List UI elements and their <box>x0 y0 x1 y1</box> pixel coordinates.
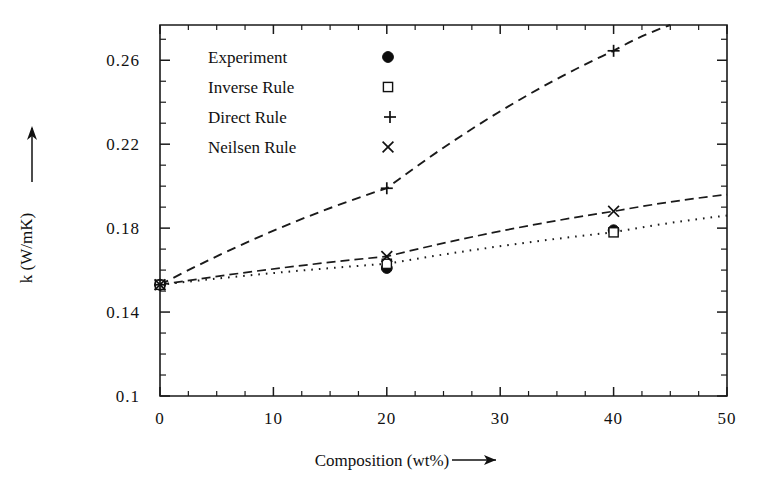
y-tick-label: 0.18 <box>106 219 140 238</box>
x-tick-label: 20 <box>377 409 396 428</box>
marker-inverse-rule <box>609 228 618 237</box>
x-tick-label: 50 <box>718 409 737 428</box>
x-axis-tick-labels: 01020304050 <box>155 409 736 428</box>
y-tick-label: 0.1 <box>116 387 140 406</box>
figure-container: 01020304050 0.10.140.180.220.26 Experime… <box>0 0 777 490</box>
y-axis-tick-labels: 0.10.140.180.220.26 <box>106 51 140 406</box>
legend-glyph-open-square-icon <box>383 82 392 91</box>
x-tick-label: 40 <box>604 409 623 428</box>
x-tick-label: 0 <box>155 409 165 428</box>
marker-direct-rule <box>608 45 620 57</box>
y-tick-label: 0.22 <box>106 135 140 154</box>
legend-label-experiment: Experiment <box>208 48 288 67</box>
legend-label-direct-rule: Direct Rule <box>208 108 287 127</box>
legend: ExperimentInverse RuleDirect RuleNeilsen… <box>208 48 396 157</box>
x-tick-label: 10 <box>264 409 283 428</box>
y-tick-label: 0.26 <box>106 51 140 70</box>
legend-glyph-filled-circle-icon <box>383 52 394 63</box>
axis-titles: Composition (wt%)k (W/mK) <box>17 126 496 470</box>
x-tick-label: 30 <box>491 409 510 428</box>
legend-glyph-cross-icon <box>383 142 394 153</box>
thermal-conductivity-chart: 01020304050 0.10.140.180.220.26 Experime… <box>0 0 777 490</box>
y-axis-title: k (W/mK) <box>17 213 36 283</box>
series-line-inverse-rule <box>160 216 727 285</box>
marker-direct-rule <box>381 182 393 194</box>
legend-glyph-plus-icon <box>384 111 396 123</box>
series-line-neilsen-rule <box>160 195 727 285</box>
y-tick-label: 0.14 <box>106 303 140 322</box>
legend-label-neilsen-rule: Neilsen Rule <box>208 138 296 157</box>
legend-label-inverse-rule: Inverse Rule <box>208 78 294 97</box>
x-axis-title: Composition (wt%) <box>315 451 450 470</box>
